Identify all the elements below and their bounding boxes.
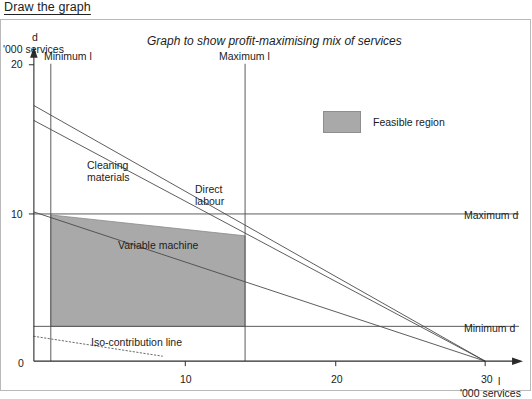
x-axis-units-label: '000 services: [460, 387, 521, 399]
x-axis-arrowhead: [512, 357, 523, 365]
x-axis-variable-label: l: [498, 375, 500, 387]
direct-labour-label-line2: labour: [195, 195, 224, 207]
legend-swatch-feasible-region: [323, 111, 361, 133]
y-axis-variable-label: d: [32, 31, 38, 43]
cleaning-materials-label-line2: materials: [87, 171, 130, 183]
cleaning-materials-label-line1: Cleaning: [87, 159, 128, 171]
y-tick-label-0: 0: [18, 357, 24, 369]
feasible-region-polygon: [51, 215, 245, 326]
y-tick-label-20: 20: [11, 58, 23, 70]
variable-machine-label: Variable machine: [118, 239, 198, 251]
x-tick-label-30: 30: [481, 373, 493, 385]
maximum-l-label: Maximum l: [219, 50, 270, 62]
x-tick-label-10: 10: [180, 373, 192, 385]
iso-contribution-label: Iso-contribution line: [91, 336, 182, 348]
legend-label-feasible-region: Feasible region: [373, 116, 445, 128]
maximum-d-label: Maximum d: [464, 209, 518, 221]
minimum-l-label: Minimum l: [44, 50, 92, 62]
chart-container: Graph to show profit-maximising mix of s…: [0, 19, 531, 391]
y-tick-label-10: 10: [11, 208, 23, 220]
plot-area: [1, 20, 530, 390]
direct-labour-label-line1: Direct: [195, 183, 222, 195]
x-tick-label-20: 20: [331, 373, 343, 385]
minimum-d-label: Minimum d: [464, 322, 515, 334]
page-title: Draw the graph: [4, 0, 91, 14]
